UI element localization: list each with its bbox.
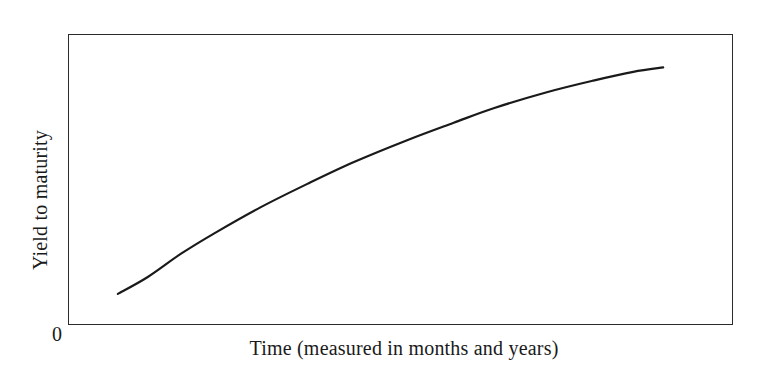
yield-curve-svg — [68, 34, 733, 325]
origin-tick-label: 0 — [52, 323, 62, 346]
x-axis-label: Time (measured in months and years) — [250, 337, 559, 360]
y-axis-label: Yield to maturity — [29, 130, 52, 270]
yield-curve-line — [118, 67, 663, 293]
chart-figure: Yield to maturity Time (measured in mont… — [0, 0, 767, 379]
